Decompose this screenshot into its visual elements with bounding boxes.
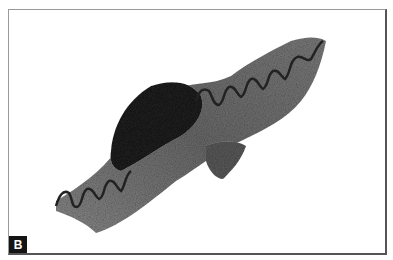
- figure-frame: B: [8, 9, 387, 255]
- tissue-specimen-image: [9, 10, 387, 255]
- panel-label: B: [9, 236, 27, 253]
